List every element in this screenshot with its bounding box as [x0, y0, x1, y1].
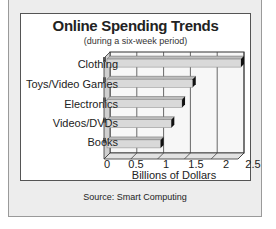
category-label: Books: [87, 136, 118, 148]
chart-panel: Online Spending Trends (during a six-wee…: [20, 13, 251, 181]
x-axis-label: Billions of Dollars: [109, 169, 239, 181]
bar: [103, 56, 244, 67]
chart-frame: Online Spending Trends (during a six-wee…: [8, 0, 262, 217]
category-label: Electronics: [64, 98, 118, 110]
plot-area: [21, 14, 250, 180]
category-label: Videos/DVDs: [53, 117, 118, 129]
category-label: Clothing: [78, 58, 118, 70]
x-tick-label: 2.5: [245, 158, 260, 170]
category-label: Toys/Video Games: [26, 78, 118, 90]
chart-source: Source: Smart Computing: [9, 192, 261, 202]
